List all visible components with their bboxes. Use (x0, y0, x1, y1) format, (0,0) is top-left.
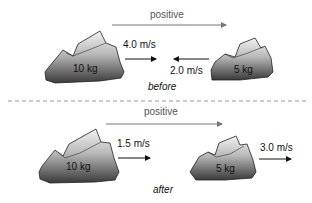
before-big-mass-label: 10 kg (73, 63, 97, 74)
diagram-canvas (0, 0, 312, 203)
after-small-velocity-label: 3.0 m/s (260, 142, 293, 153)
before-small-velocity-label: 2.0 m/s (170, 65, 203, 76)
after-positive-label: positive (144, 106, 178, 117)
after-big-velocity-label: 1.5 m/s (117, 138, 150, 149)
before-small-mass-label: 5 kg (234, 64, 253, 75)
after-small-mass-label: 5 kg (216, 163, 235, 174)
before-big-rock (45, 31, 124, 83)
after-big-rock (39, 129, 119, 183)
after-big-mass-label: 10 kg (66, 161, 90, 172)
before-positive-label: positive (150, 9, 184, 20)
before-big-velocity-label: 4.0 m/s (123, 39, 156, 50)
after-caption: after (153, 184, 173, 195)
before-caption: before (148, 81, 176, 92)
